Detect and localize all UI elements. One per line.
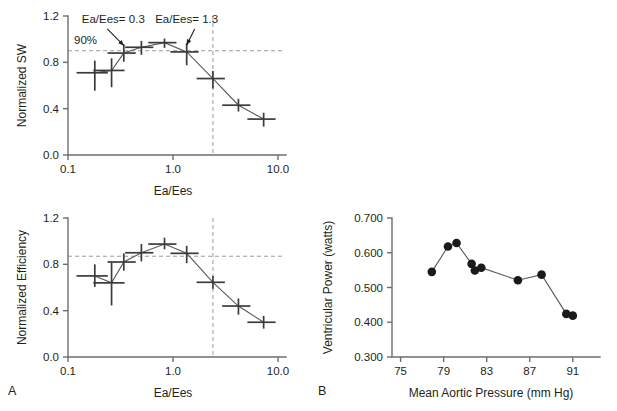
y-tick-label: 0.4 bbox=[43, 305, 60, 317]
y-tick-label: 1.2 bbox=[43, 10, 59, 22]
y-tick-label: 1.2 bbox=[43, 212, 59, 224]
data-point-marker bbox=[568, 311, 577, 320]
x-tick-label: 79 bbox=[437, 365, 450, 377]
data-point-errorbar bbox=[222, 299, 250, 315]
x-tick-label: 0.1 bbox=[60, 365, 76, 377]
panel-letter-a-text: A bbox=[8, 384, 16, 398]
panel-letter-b-text: B bbox=[318, 384, 326, 398]
y-axis-title: Normalized Efficiency bbox=[15, 230, 29, 345]
data-point-marker bbox=[514, 276, 523, 285]
chart-normalized-efficiency: 0.00.40.81.20.11.010.0Ea/EesNormalized E… bbox=[0, 200, 310, 411]
x-tick-label: 0.1 bbox=[60, 163, 76, 175]
x-tick-label: 91 bbox=[566, 365, 579, 377]
normalized-efficiency-svg: 0.00.40.81.20.11.010.0Ea/EesNormalized E… bbox=[0, 200, 310, 411]
panel-letter-b: B bbox=[318, 381, 326, 399]
x-tick-label: 75 bbox=[394, 365, 407, 377]
y-tick-label: 0.0 bbox=[43, 149, 59, 161]
normalized-sw-svg: 0.00.40.81.20.11.010.090%Ea/Ees= 0.3Ea/E… bbox=[0, 0, 310, 200]
axis-spines bbox=[392, 218, 600, 357]
annotation-label: Ea/Ees= 1.3 bbox=[155, 13, 218, 25]
y-tick-label: 0.400 bbox=[354, 316, 383, 328]
panel-letter-a: A bbox=[8, 381, 16, 399]
data-point-marker bbox=[452, 239, 461, 248]
y-tick-label: 0.600 bbox=[354, 247, 383, 259]
chart-normalized-sw: 0.00.40.81.20.11.010.090%Ea/Ees= 0.3Ea/E… bbox=[0, 0, 310, 200]
y-tick-label: 0.0 bbox=[43, 351, 59, 363]
x-tick-label: 87 bbox=[523, 365, 536, 377]
series-connector bbox=[432, 243, 573, 316]
y-tick-label: 0.700 bbox=[354, 212, 383, 224]
axis-spines bbox=[68, 16, 286, 155]
y-tick-label: 0.8 bbox=[43, 56, 59, 68]
ventricular-power-svg: 0.3000.4000.5000.6000.7007579838791Mean … bbox=[310, 200, 617, 411]
data-point-marker bbox=[537, 270, 546, 279]
data-point-marker bbox=[444, 242, 453, 251]
x-tick-label: 10.0 bbox=[267, 163, 289, 175]
x-tick-label: 10.0 bbox=[267, 365, 289, 377]
reference-line-label: 90% bbox=[74, 34, 97, 46]
y-axis-title: Ventricular Power (watts) bbox=[321, 221, 335, 354]
x-tick-label: 1.0 bbox=[165, 365, 181, 377]
data-point-marker bbox=[428, 268, 437, 277]
data-point-errorbar bbox=[197, 71, 225, 88]
y-tick-label: 0.300 bbox=[354, 351, 383, 363]
chart-ventricular-power: 0.3000.4000.5000.6000.7007579838791Mean … bbox=[310, 200, 617, 411]
y-tick-label: 0.4 bbox=[43, 103, 60, 115]
data-point-errorbar bbox=[197, 276, 225, 289]
axis-spines bbox=[68, 218, 286, 357]
x-axis-title: Mean Aortic Pressure (mm Hg) bbox=[409, 386, 574, 400]
data-point-errorbar bbox=[247, 316, 275, 329]
x-tick-label: 1.0 bbox=[165, 163, 181, 175]
annotation-label: Ea/Ees= 0.3 bbox=[82, 13, 145, 25]
figure-root: 0.00.40.81.20.11.010.090%Ea/Ees= 0.3Ea/E… bbox=[0, 0, 617, 411]
y-tick-label: 0.500 bbox=[354, 282, 383, 294]
x-axis-title: Ea/Ees bbox=[154, 184, 193, 198]
x-axis-title: Ea/Ees bbox=[154, 386, 193, 400]
data-point-errorbar bbox=[247, 113, 275, 127]
y-tick-label: 0.8 bbox=[43, 258, 59, 270]
data-point-marker bbox=[477, 263, 486, 272]
data-point-errorbar bbox=[77, 61, 108, 91]
x-tick-label: 83 bbox=[480, 365, 493, 377]
y-axis-title: Normalized SW bbox=[15, 43, 29, 127]
